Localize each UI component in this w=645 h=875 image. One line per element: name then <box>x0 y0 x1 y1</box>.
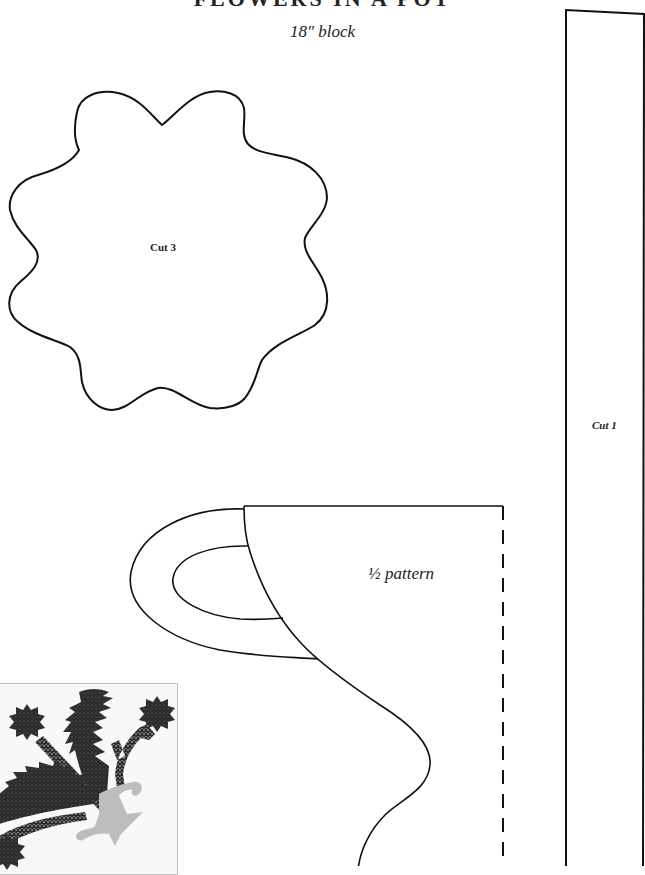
strip-pattern-piece <box>566 10 644 866</box>
thumb-flower-bottom <box>0 834 25 870</box>
finished-block-thumbnail <box>0 683 178 875</box>
strip-cut-label: Cut 1 <box>592 419 617 431</box>
thumb-flower-left <box>9 704 45 740</box>
flower-cut-label: Cut 3 <box>150 241 176 253</box>
pot-handle-outer <box>130 509 318 659</box>
pot-handle-inner <box>173 546 283 619</box>
pot-body-curve <box>244 506 430 866</box>
pot-half-pattern-label: ½ pattern <box>368 564 434 584</box>
thumb-stem-right <box>111 724 155 788</box>
